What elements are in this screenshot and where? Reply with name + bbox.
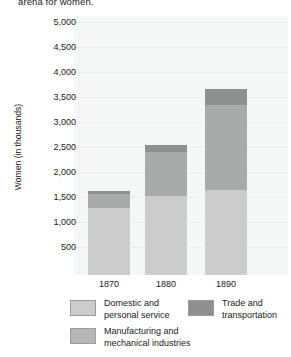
x-tick-label-1870: 1870 [79, 279, 139, 289]
legend-label-line2: mechanical industries [104, 338, 191, 348]
y-tick-label: 4,000 [28, 67, 76, 77]
y-tick-label: 3,000 [28, 117, 76, 127]
chart-page: arena for women. Women (in thousands) [0, 0, 291, 357]
chart-legend: Domestic and personal service Trade and … [0, 297, 291, 357]
gridline [74, 22, 288, 23]
bar-segment-domestic [145, 196, 187, 275]
bar-segment-trade [145, 145, 187, 152]
legend-label-domestic: Domestic and personal service [104, 298, 170, 321]
legend-label-line2: transportation [222, 310, 277, 320]
legend-label-manufacturing: Manufacturing and mechanical industries [104, 326, 191, 349]
legend-label-line1: Trade and [222, 298, 263, 308]
legend-label-line2: personal service [104, 310, 170, 320]
y-tick-label: 500 [28, 242, 76, 252]
y-tick-label: 3,500 [28, 92, 76, 102]
y-tick-label: 2,000 [28, 167, 76, 177]
bar-segment-domestic [205, 190, 247, 275]
gridline [74, 122, 288, 123]
gridline [74, 72, 288, 73]
plot-area [74, 16, 288, 275]
legend-swatch-trade [188, 300, 214, 316]
bar-segment-trade [205, 89, 247, 105]
bar-segment-manufacturing [205, 105, 247, 190]
y-tick-label: 4,500 [28, 42, 76, 52]
bar-segment-manufacturing [145, 152, 187, 196]
legend-label-trade: Trade and transportation [222, 298, 277, 321]
y-tick-label: 5,000 [28, 17, 76, 27]
legend-swatch-manufacturing [70, 328, 96, 344]
cut-off-caption-text: arena for women. [18, 0, 94, 7]
bar-segment-manufacturing [88, 194, 130, 208]
y-tick-label: 1,500 [28, 192, 76, 202]
bar-1890[interactable] [205, 89, 247, 275]
x-tick-label-1890: 1890 [196, 279, 256, 289]
y-axis-title: Women (in thousands) [13, 77, 23, 217]
bar-segment-domestic [88, 208, 130, 275]
gridline [74, 97, 288, 98]
bar-1880[interactable] [145, 145, 187, 275]
legend-label-line1: Manufacturing and [104, 326, 179, 336]
x-tick-label-1880: 1880 [136, 279, 196, 289]
y-tick-label: 2,500 [28, 142, 76, 152]
legend-label-line1: Domestic and [104, 298, 159, 308]
gridline [74, 47, 288, 48]
legend-swatch-domestic [70, 300, 96, 316]
y-tick-label: 1,000 [28, 217, 76, 227]
bar-1870[interactable] [88, 191, 130, 275]
bar-segment-trade [88, 191, 130, 194]
